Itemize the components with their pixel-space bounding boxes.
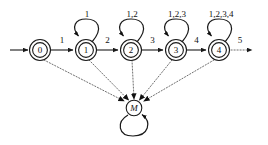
sink-edge-1-to-m (89, 60, 129, 100)
state-1-label: 1 (84, 45, 89, 55)
self-loop-label-3: 1,2,3 (168, 9, 187, 19)
edge-label-3-to-4: 4 (194, 35, 199, 45)
state-node-1[interactable]: 1 (76, 40, 97, 61)
edge-label-4-to-next: 5 (238, 35, 243, 45)
state-3-label: 3 (174, 45, 179, 55)
state-4-label: 4 (217, 45, 222, 55)
sink-edge-4-to-m (144, 60, 214, 101)
self-loop-label-2: 1,2 (126, 9, 137, 19)
state-node-m[interactable]: M (126, 100, 142, 116)
sink-edge-2-to-m (132, 60, 134, 99)
state-node-0[interactable]: 0 (30, 40, 51, 61)
self-loop-1 (75, 19, 99, 42)
self-loop-label-4: 1,2,3,4 (209, 9, 234, 19)
self-loop-m (120, 115, 148, 137)
self-loop-2 (120, 19, 144, 42)
automaton-diagram: 0 1 2 3 4 M 1 2 3 (0, 0, 268, 145)
self-loop-label-1: 1 (85, 9, 90, 19)
state-node-3[interactable]: 3 (166, 40, 187, 61)
edge-label-2-to-3: 3 (150, 35, 155, 45)
state-m-label: M (129, 103, 138, 113)
automaton-canvas: 0 1 2 3 4 M 1 2 3 (0, 0, 268, 145)
sink-edges-group (44, 60, 214, 101)
edge-label-0-to-1: 1 (60, 35, 65, 45)
state-node-2[interactable]: 2 (121, 40, 142, 61)
self-loop-3 (165, 19, 189, 42)
edge-label-1-to-2: 2 (105, 35, 110, 45)
sink-edge-0-to-m (44, 60, 124, 101)
state-0-label: 0 (38, 45, 43, 55)
state-2-label: 2 (129, 45, 134, 55)
state-node-4[interactable]: 4 (209, 40, 230, 61)
self-loop-4 (208, 19, 232, 42)
self-loop-labels-group: 1 1,2 1,2,3 1,2,3,4 (85, 9, 234, 19)
